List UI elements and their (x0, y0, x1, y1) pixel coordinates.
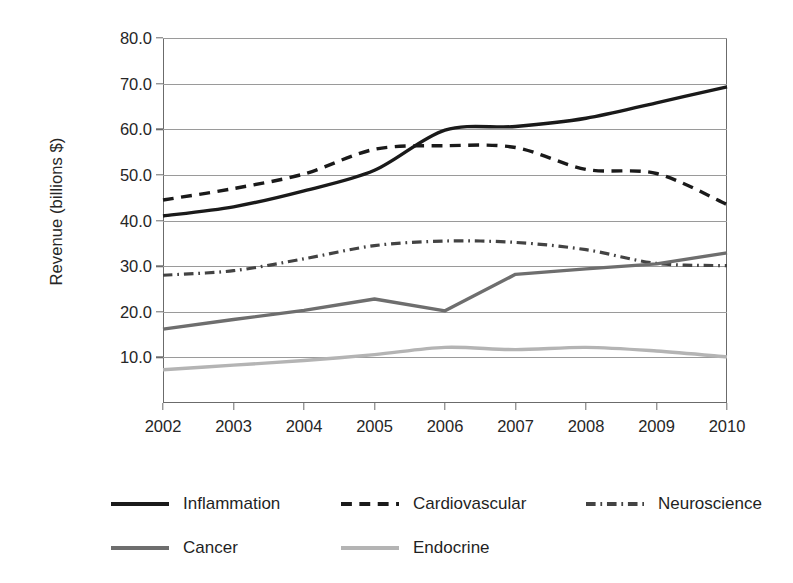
legend-row: InflammationCardiovascularNeuroscience (110, 482, 770, 526)
x-tick-label: 2004 (286, 417, 323, 436)
x-tick-label: 2006 (427, 417, 464, 436)
x-tick-label: 2005 (356, 417, 393, 436)
legend-swatch-neuroscience (585, 497, 645, 511)
x-tick-mark (515, 403, 516, 410)
series-lines (163, 38, 727, 403)
x-tick-label: 2010 (709, 417, 746, 436)
y-tick-mark (156, 265, 163, 266)
y-tick-label: 50.0 (120, 165, 152, 184)
legend-label: Endocrine (413, 538, 490, 558)
chart-legend: InflammationCardiovascularNeuroscience C… (110, 482, 770, 570)
x-tick-mark (656, 403, 657, 410)
y-tick-mark (156, 311, 163, 312)
legend-label: Cardiovascular (413, 494, 526, 514)
legend-item-cardiovascular[interactable]: Cardiovascular (340, 494, 585, 514)
series-line-endocrine (163, 347, 727, 369)
series-line-cancer (163, 253, 727, 329)
legend-row: CancerEndocrine (110, 526, 770, 570)
y-tick-mark (156, 129, 163, 130)
y-tick-label: 10.0 (120, 348, 152, 367)
series-line-inflammation (163, 87, 727, 216)
revenue-line-chart: Revenue (billions $) 10.020.030.040.050.… (0, 0, 793, 583)
legend-swatch-inflammation (110, 497, 170, 511)
y-tick-mark (156, 37, 163, 38)
x-tick-mark (233, 403, 234, 410)
legend-label: Cancer (183, 538, 238, 558)
y-axis-title: Revenue (billions $) (47, 81, 66, 341)
y-tick-mark (156, 357, 163, 358)
legend-swatch-cancer (110, 541, 170, 555)
plot-area: 10.020.030.040.050.060.070.080.0 2002200… (163, 38, 727, 403)
x-tick-label: 2008 (568, 417, 605, 436)
x-tick-mark (374, 403, 375, 410)
y-tick-mark (156, 220, 163, 221)
y-tick-label: 40.0 (120, 211, 152, 230)
x-tick-mark (726, 403, 727, 410)
series-line-neuroscience (163, 241, 727, 275)
x-tick-label: 2007 (497, 417, 534, 436)
y-tick-label: 20.0 (120, 302, 152, 321)
legend-swatch-endocrine (340, 541, 400, 555)
x-tick-mark (585, 403, 586, 410)
legend-item-cancer[interactable]: Cancer (110, 538, 340, 558)
x-tick-label: 2002 (145, 417, 182, 436)
y-tick-mark (156, 83, 163, 84)
legend-label: Inflammation (183, 494, 280, 514)
series-line-cardiovascular (163, 145, 727, 204)
legend-item-endocrine[interactable]: Endocrine (340, 538, 585, 558)
legend-label: Neuroscience (658, 494, 762, 514)
legend-item-neuroscience[interactable]: Neuroscience (585, 494, 765, 514)
x-tick-mark (162, 403, 163, 410)
x-tick-label: 2003 (215, 417, 252, 436)
y-tick-label: 70.0 (120, 74, 152, 93)
y-tick-mark (156, 174, 163, 175)
x-tick-mark (444, 403, 445, 410)
legend-item-inflammation[interactable]: Inflammation (110, 494, 340, 514)
legend-swatch-cardiovascular (340, 497, 400, 511)
y-tick-label: 60.0 (120, 120, 152, 139)
x-tick-label: 2009 (638, 417, 675, 436)
y-tick-label: 30.0 (120, 257, 152, 276)
x-tick-mark (303, 403, 304, 410)
y-tick-label: 80.0 (120, 29, 152, 48)
